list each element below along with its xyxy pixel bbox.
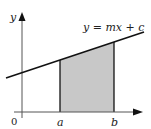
diagram-canvas: y = mx + c y 0 a b bbox=[0, 0, 151, 129]
y-axis-label: y bbox=[9, 11, 17, 24]
shaded-area bbox=[60, 42, 114, 112]
x-tick-a: a bbox=[57, 116, 64, 129]
y-axis-arrow-icon bbox=[19, 12, 26, 21]
x-tick-b: b bbox=[111, 116, 118, 129]
line-label: y = mx + c bbox=[82, 21, 144, 34]
x-axis-arrow-icon bbox=[133, 109, 143, 116]
origin-label: 0 bbox=[11, 116, 17, 127]
